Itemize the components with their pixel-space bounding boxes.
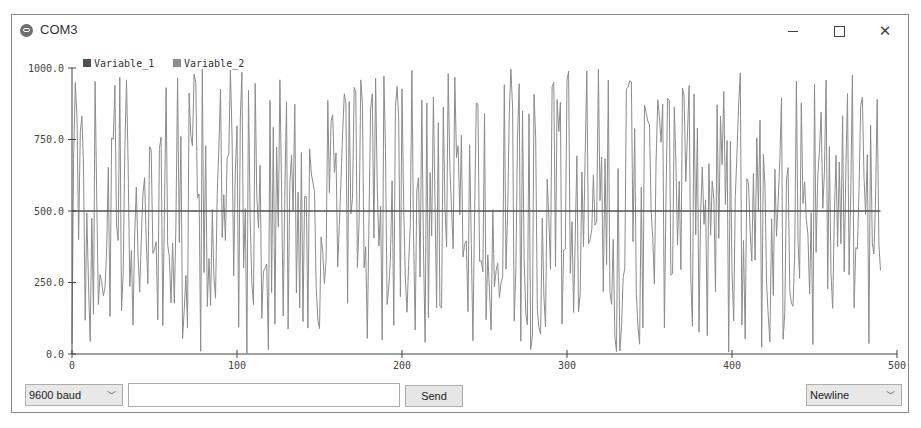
svg-text:1000.0: 1000.0 (28, 63, 64, 74)
baud-rate-value: 9600 baud (29, 389, 81, 401)
svg-text:100: 100 (228, 360, 246, 371)
legend-swatch-variable-1 (83, 59, 91, 67)
legend-label-variable-2: Variable_2 (184, 58, 244, 70)
svg-text:0.0: 0.0 (46, 349, 64, 360)
legend: Variable_1 Variable_2 (83, 58, 244, 70)
chevron-down-icon: ﹀ (886, 389, 895, 402)
message-input[interactable] (128, 383, 400, 407)
svg-text:0: 0 (69, 360, 75, 371)
svg-text:400: 400 (723, 360, 741, 371)
legend-swatch-variable-2 (173, 59, 181, 67)
legend-label-variable-1: Variable_1 (94, 58, 154, 70)
bottom-toolbar: 9600 baud ﹀ Send Newline ﹀ (12, 380, 908, 410)
line-ending-value: Newline (810, 389, 849, 401)
baud-rate-select[interactable]: 9600 baud ﹀ (25, 384, 123, 406)
svg-text:500: 500 (888, 360, 906, 371)
svg-text:500.0: 500.0 (34, 206, 64, 217)
svg-text:200: 200 (393, 360, 411, 371)
chevron-down-icon: ﹀ (107, 389, 116, 402)
serial-plotter-window: COM3 ✕ 0.0250.0500.0750.01000.0010020030… (11, 14, 909, 413)
svg-text:300: 300 (558, 360, 576, 371)
send-button[interactable]: Send (405, 385, 463, 407)
line-ending-select[interactable]: Newline ﹀ (806, 384, 902, 406)
svg-text:750.0: 750.0 (34, 134, 64, 145)
plot-area: 0.0250.0500.0750.01000.00100200300400500… (12, 15, 910, 380)
svg-text:250.0: 250.0 (34, 277, 64, 288)
